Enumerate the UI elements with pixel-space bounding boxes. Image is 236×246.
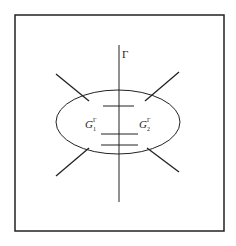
svg-text:1: 1	[93, 126, 96, 132]
svg-text:Γ: Γ	[93, 117, 97, 123]
external-leg-top-right	[145, 72, 179, 101]
diagram-canvas: Γ G 1 Γ G 2 Γ	[0, 0, 236, 246]
svg-text:2: 2	[147, 126, 150, 132]
gamma-axis-label: Γ	[122, 48, 128, 60]
ellipse-region	[56, 90, 180, 154]
external-leg-bottom-left	[56, 148, 89, 176]
right-subgraph-label: G 2 Γ	[139, 117, 151, 132]
svg-text:G: G	[139, 118, 147, 130]
svg-text:Γ: Γ	[147, 117, 151, 123]
svg-text:G: G	[85, 118, 93, 130]
left-subgraph-label: G 1 Γ	[85, 117, 97, 132]
external-leg-bottom-right	[147, 148, 179, 172]
external-leg-top-left	[56, 74, 89, 101]
